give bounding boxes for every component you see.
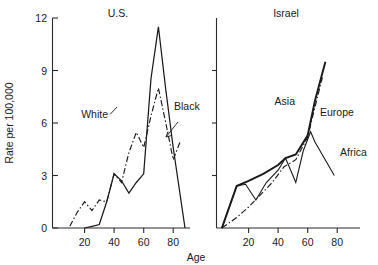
x-tick-label-israel-80: 80	[331, 236, 343, 248]
x-tick-label-us-80: 80	[167, 236, 179, 248]
panel-us: U.S. 20 40 60 80 White Black	[53, 7, 201, 248]
panel-title-us: U.S.	[108, 7, 128, 19]
y-tick-label-6: 6	[41, 117, 47, 129]
chart-figure: 12 9 6 3 0 Rate per 100,000 U.S. 20 40 6…	[0, 0, 378, 265]
panel-title-israel: Israel	[273, 7, 299, 19]
series-label-asia: Asia	[275, 95, 296, 107]
x-tick-label-israel-60: 60	[302, 236, 314, 248]
series-label-europe: Europe	[320, 106, 354, 118]
y-tick-label-9: 9	[41, 65, 47, 77]
series-line-asia	[222, 62, 326, 228]
x-tick-label-israel-20: 20	[243, 236, 255, 248]
series-line-europe	[222, 78, 323, 229]
leader-white	[110, 107, 117, 115]
x-tick-label-us-40: 40	[108, 236, 120, 248]
y-axis-group: 12 9 6 3 0 Rate per 100,000	[3, 12, 58, 234]
series-label-black: Black	[174, 100, 200, 112]
series-line-black	[85, 27, 185, 228]
y-axis-title: Rate per 100,000	[3, 82, 15, 163]
panel-israel: Israel 20 40 60 80 Asia	[212, 7, 367, 248]
y-tick-label-0: 0	[41, 222, 47, 234]
series-line-africa	[222, 132, 334, 228]
y-tick-label-3: 3	[41, 170, 47, 182]
line-chart-svg: 12 9 6 3 0 Rate per 100,000 U.S. 20 40 6…	[0, 0, 378, 265]
y-tick-label-12: 12	[35, 12, 47, 24]
x-tick-label-us-20: 20	[79, 236, 91, 248]
x-tick-label-us-60: 60	[138, 236, 150, 248]
series-label-africa: Africa	[340, 146, 367, 158]
x-axis-title: Age	[187, 251, 206, 263]
series-label-white: White	[81, 108, 108, 120]
x-tick-label-israel-40: 40	[272, 236, 284, 248]
